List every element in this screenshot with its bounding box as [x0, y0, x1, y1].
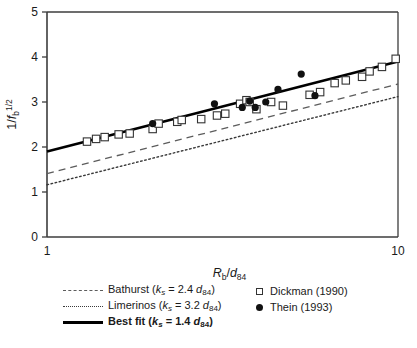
data-point-dickman	[115, 131, 122, 138]
legend-item-thein[interactable]: Thein (1993)	[252, 299, 348, 315]
legend-label-limerinos: Limerinos (ks = 3.2 d84)	[104, 299, 222, 315]
data-point-thein	[274, 86, 281, 93]
data-point-dickman	[92, 135, 99, 142]
bathurst-line	[47, 84, 398, 174]
figure-root: 543210110Rb/d841/fb1/2 Bathurst (ks = 2.…	[0, 0, 417, 348]
legend-item-best-fit[interactable]: Best fit (ks = 1.4 d84)	[62, 315, 222, 331]
data-point-thein	[246, 98, 253, 105]
y-tick-label: 4	[31, 50, 38, 64]
x-tick-label: 1	[44, 244, 51, 258]
legend-column-markers: Dickman (1990) Thein (1993)	[252, 283, 348, 315]
data-point-dickman	[101, 133, 108, 140]
y-tick-label: 5	[31, 5, 38, 19]
data-point-thein	[252, 104, 259, 111]
legend-label-thein: Thein (1993)	[266, 301, 332, 314]
data-point-dickman	[342, 77, 349, 84]
legend-label-dickman: Dickman (1990)	[266, 285, 348, 298]
filled-circle-marker	[252, 300, 266, 314]
x-tick-label: 10	[391, 244, 405, 258]
data-point-thein	[298, 71, 305, 78]
data-point-dickman	[366, 68, 373, 75]
data-point-thein	[262, 98, 269, 105]
data-point-dickman	[378, 63, 385, 70]
legend-item-limerinos[interactable]: Limerinos (ks = 3.2 d84)	[62, 299, 222, 315]
data-point-dickman	[279, 102, 286, 109]
x-axis-title: Rb/d84	[213, 266, 247, 282]
data-point-dickman	[83, 138, 90, 145]
y-tick-label: 0	[31, 230, 38, 244]
chart-legend: Bathurst (ks = 2.4 d84) Limerinos (ks = …	[0, 283, 417, 345]
legend-item-dickman[interactable]: Dickman (1990)	[252, 283, 348, 299]
data-point-dickman	[392, 55, 399, 62]
legend-column-lines: Bathurst (ks = 2.4 d84) Limerinos (ks = …	[62, 283, 222, 331]
data-point-thein	[149, 120, 156, 127]
solid-line-swatch	[62, 316, 104, 330]
y-tick-label: 3	[31, 95, 38, 109]
dashed-line-swatch	[62, 284, 104, 298]
y-tick-label: 1	[31, 185, 38, 199]
dotted-line-swatch	[62, 300, 104, 314]
data-point-thein	[239, 104, 246, 111]
data-point-dickman	[198, 115, 205, 122]
data-point-dickman	[331, 79, 338, 86]
legend-item-bathurst[interactable]: Bathurst (ks = 2.4 d84)	[62, 283, 222, 299]
data-point-dickman	[178, 116, 185, 123]
scatter-plot-canvas: 543210110Rb/d841/fb1/2	[0, 0, 417, 283]
y-tick-label: 2	[31, 140, 38, 154]
y-axis-title: 1/fb1/2	[4, 99, 21, 130]
svg-text:1/fb1/2: 1/fb1/2	[4, 99, 21, 130]
data-point-dickman	[213, 112, 220, 119]
legend-label-bathurst: Bathurst (ks = 2.4 d84)	[104, 283, 215, 299]
data-point-thein	[211, 100, 218, 107]
legend-label-best-fit: Best fit (ks = 1.4 d84)	[104, 315, 213, 331]
data-point-dickman	[358, 73, 365, 80]
data-point-thein	[311, 92, 318, 99]
data-point-dickman	[126, 130, 133, 137]
open-square-marker	[252, 284, 266, 298]
data-point-dickman	[222, 110, 229, 117]
